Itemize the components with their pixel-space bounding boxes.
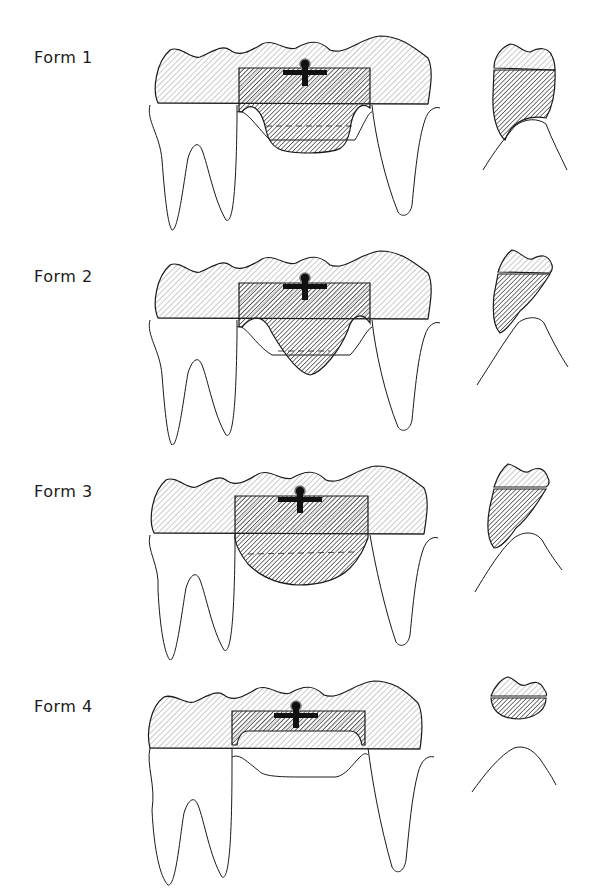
form-row-1: Form 1 (0, 0, 609, 220)
right-abutment-tooth (370, 535, 438, 645)
left-abutment-tooth (149, 748, 232, 885)
form-row-4: Form 4 (0, 645, 609, 865)
ridge-outline (483, 120, 567, 170)
bridge-diagram-form-3 (0, 430, 609, 660)
cross-section-profile-4 (472, 677, 556, 792)
form-row-3: Form 3 (0, 430, 609, 650)
bridge-diagram-form-2 (0, 215, 609, 445)
left-abutment-tooth (149, 535, 235, 660)
cross-section-profile-2 (477, 250, 568, 385)
bridge-diagram-form-1 (0, 0, 609, 235)
right-abutment-tooth (372, 320, 440, 430)
ridge-outline (472, 747, 556, 792)
gingival-ridge (232, 754, 368, 777)
bridge-diagram-form-4 (0, 645, 609, 892)
right-abutment-tooth (368, 748, 434, 872)
right-abutment-tooth (372, 105, 440, 215)
ridge-outline (475, 533, 562, 592)
left-abutment-tooth (149, 320, 237, 445)
left-abutment-tooth (149, 105, 237, 230)
cross-section-profile-1 (483, 44, 567, 170)
ridge-outline (477, 318, 568, 385)
form-row-2: Form 2 (0, 215, 609, 435)
cross-section-profile-3 (475, 464, 562, 592)
